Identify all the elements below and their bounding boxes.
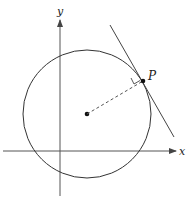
x-axis-label: x [179,145,186,158]
radius-dashed [87,81,143,114]
point-p-label: P [147,69,157,83]
right-angle-marker [131,78,140,84]
diagram-canvas: x y P [0,0,190,203]
y-axis-label: y [56,5,64,18]
point-p [141,79,146,84]
